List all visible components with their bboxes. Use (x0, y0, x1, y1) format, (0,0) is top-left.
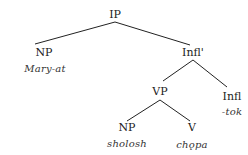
word-mary-at: Mary-at (24, 64, 65, 74)
node-infl: Infl (223, 91, 242, 102)
node-np-object: NP (118, 122, 135, 133)
edge-vp-v (160, 100, 190, 121)
node-ip: IP (109, 9, 121, 20)
node-vp: VP (152, 86, 167, 97)
edge-inflbar-vp (163, 60, 193, 81)
edge-ip-inflbar (115, 22, 190, 45)
node-v: V (188, 122, 196, 133)
node-infl-bar: Infl' (182, 47, 204, 58)
word-tok: -tok (222, 107, 242, 117)
word-chopa: chǫpa (176, 140, 207, 150)
node-np-subject: NP (35, 47, 52, 58)
edge-vp-np (127, 100, 160, 121)
word-sholosh: sholosh (107, 139, 147, 149)
edge-inflbar-infl (193, 60, 227, 87)
edge-ip-np (35, 22, 115, 44)
